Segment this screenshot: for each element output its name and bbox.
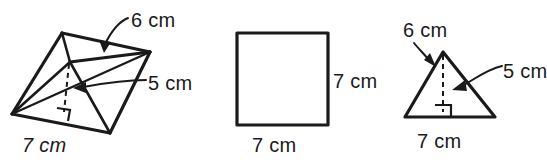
prism-label-base: 7 cm [22, 134, 67, 156]
square-label-bottom-side: 7 cm [252, 134, 297, 156]
triangle-label-height: 5 cm [503, 60, 547, 82]
figure-triangle: 6 cm 5 cm 7 cm [390, 0, 547, 165]
prism-leader-height [84, 80, 146, 87]
prism-right-angle-marker [57, 108, 70, 121]
triangle-arrowhead-height [452, 80, 467, 91]
prism-label-slant: 6 cm [131, 9, 176, 31]
prism-label-height: 5 cm [148, 72, 193, 94]
triangle-label-base: 7 cm [417, 130, 462, 152]
square-label-right-side: 7 cm [333, 70, 378, 92]
square-outline [237, 33, 328, 125]
triangle-label-slant: 6 cm [403, 19, 448, 41]
prism-edge-bottom [12, 114, 110, 133]
prism-edge-apex-link [62, 33, 70, 62]
prism-leader-slant [105, 18, 128, 44]
figure-triangular-prism: 6 cm 5 cm 7 cm [0, 0, 215, 165]
figure-sheet: 6 cm 5 cm 7 cm 7 cm 7 cm 6 cm [0, 0, 547, 165]
prism-edge-right [110, 52, 150, 133]
triangle-leader-height [464, 66, 502, 85]
prism-edges [12, 33, 150, 133]
prism-arrowhead-slant [99, 40, 111, 53]
figure-square: 7 cm 7 cm [215, 0, 390, 165]
